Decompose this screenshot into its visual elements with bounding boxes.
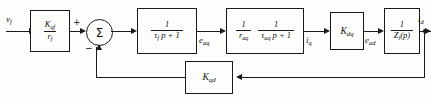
armature-res-numerator: 1: [238, 20, 248, 30]
forward-gain-block[interactable]: Kqf rf: [30, 10, 70, 52]
kdq-label: Kdq: [340, 26, 353, 37]
feedback-wire-bottom-right: [241, 77, 425, 78]
forward-gain-numerator: Kqf: [42, 20, 58, 31]
wire-sum-to-lag: [111, 31, 133, 32]
feedback-wire-down: [424, 31, 425, 78]
feedback-gain-block[interactable]: Kqd: [185, 61, 233, 94]
feedback-wire-riser: [96, 47, 97, 78]
armature-lag-denominator: τaq p + 1: [258, 30, 294, 42]
armature-res-denominator: raq: [236, 30, 251, 42]
output-arrowhead: [425, 28, 431, 34]
feedback-kqd-arrowhead: [236, 74, 242, 80]
forward-gain-fraction: Kqf rf: [40, 20, 60, 43]
lag-fraction: 1 τf p + 1: [149, 20, 184, 42]
first-order-lag-block[interactable]: 1 τf p + 1: [137, 8, 197, 54]
armature-transfer-block[interactable]: 1 raq 1 τaq p + 1: [226, 8, 304, 54]
block-diagram-canvas: vf Kqf rf + Σ − 1 τf p + 1: [0, 0, 431, 98]
wire-lag-to-armature: [197, 31, 222, 32]
signal-label-ead: ead: [365, 36, 375, 46]
signal-label-eaq: eaq: [199, 36, 209, 46]
impedance-denominator: Zi(p): [391, 30, 413, 42]
lag-numerator: 1: [162, 20, 172, 30]
lag-denominator: τf p + 1: [151, 30, 182, 42]
sum-minus-sign: −: [85, 44, 93, 53]
signal-label-output: id: [418, 15, 424, 25]
forward-gain-denominator: rf: [44, 31, 55, 43]
impedance-numerator: 1: [397, 20, 407, 30]
signal-label-iq: iq: [306, 36, 312, 46]
signal-label-input: vf: [6, 15, 12, 25]
kqd-label: Kqd: [202, 72, 215, 83]
impedance-fraction: 1 Zi(p): [389, 20, 415, 42]
summing-junction[interactable]: Σ: [86, 19, 113, 46]
wire-armature-to-kdq: [304, 31, 326, 32]
sum-plus-sign: +: [73, 18, 81, 27]
armature-dual-fraction: 1 raq 1 τaq p + 1: [234, 20, 296, 42]
cross-coupling-gain-block[interactable]: Kdq: [330, 12, 364, 50]
input-wire: [6, 31, 30, 32]
sigma-icon: Σ: [96, 26, 104, 40]
feedback-wire-bottom-left: [96, 77, 185, 78]
armature-lag-numerator: 1: [271, 20, 281, 30]
armature-lag-fraction: 1 τaq p + 1: [256, 20, 296, 42]
load-impedance-block[interactable]: 1 Zi(p): [384, 8, 420, 54]
armature-resistance-fraction: 1 raq: [234, 20, 253, 42]
